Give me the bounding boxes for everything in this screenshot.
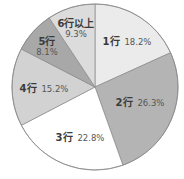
slice-name: 3行 — [56, 132, 73, 143]
slice-percent: 18.2% — [124, 37, 151, 47]
slice-label-3: 3行 22.8% — [56, 133, 105, 143]
slice-percent: 9.3% — [58, 29, 95, 39]
slice-name: 4行 — [20, 83, 37, 94]
slice-name: 6行以上 — [58, 19, 95, 29]
slice-label-5: 5行 8.1% — [36, 37, 58, 57]
slice-name: 2行 — [116, 97, 133, 108]
slice-label-6: 6行以上 9.3% — [58, 19, 95, 39]
slice-name: 1行 — [103, 36, 120, 47]
slice-percent: 15.2% — [41, 84, 68, 94]
slice-name: 5行 — [36, 37, 58, 47]
slice-percent: 8.1% — [36, 47, 58, 57]
slice-label-4: 4行 15.2% — [20, 84, 69, 94]
slice-label-1: 1行 18.2% — [103, 37, 152, 47]
slice-label-2: 2行 26.3% — [116, 98, 165, 108]
slice-percent: 22.8% — [77, 133, 104, 143]
slice-percent: 26.3% — [137, 98, 164, 108]
